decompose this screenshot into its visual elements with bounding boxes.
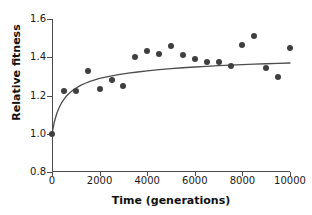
data-point <box>109 77 115 83</box>
data-point <box>287 45 293 51</box>
data-point <box>49 131 55 137</box>
x-tick-label-4000: 4000 <box>124 176 170 186</box>
data-point <box>263 65 269 71</box>
x-tick-label-8000: 8000 <box>219 176 265 186</box>
data-point <box>73 88 79 94</box>
fitness-vs-time-chart: 0.81.01.21.41.6 0200040006000800010000 R… <box>0 0 312 215</box>
data-point <box>216 59 222 65</box>
data-point <box>85 68 91 74</box>
y-tick-label-1.4: 1.4 <box>20 52 46 62</box>
y-tick-label-1.2: 1.2 <box>20 91 46 101</box>
data-point <box>144 48 150 54</box>
y-tick-label-1.6: 1.6 <box>20 14 46 24</box>
data-point <box>228 63 234 69</box>
data-point <box>61 88 67 94</box>
x-tick-label-10000: 10000 <box>267 176 312 186</box>
x-tick-label-2000: 2000 <box>77 176 123 186</box>
fit-curve <box>52 19 290 172</box>
y-tick-label-1.0: 1.0 <box>20 129 46 139</box>
data-point <box>204 59 210 65</box>
x-tick-label-0: 0 <box>29 176 75 186</box>
x-tick-label-6000: 6000 <box>172 176 218 186</box>
data-point <box>168 43 174 49</box>
data-point <box>97 86 103 92</box>
data-point <box>192 56 198 62</box>
y-axis-title: Relative fitness <box>10 18 23 128</box>
x-axis-title: Time (generations) <box>52 194 290 207</box>
